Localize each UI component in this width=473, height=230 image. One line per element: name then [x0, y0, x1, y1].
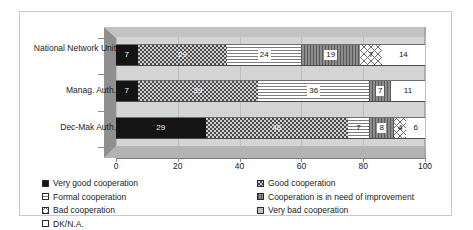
- legend-label: Bad cooperation: [53, 205, 115, 215]
- segment-value-label: 19: [324, 50, 337, 60]
- segment-value-label: 7: [125, 87, 129, 95]
- legend-item[interactable]: Formal cooperation: [42, 191, 257, 203]
- legend-column-left: Very good cooperationFormal cooperationB…: [42, 177, 257, 230]
- segment-value-label: 29: [156, 124, 165, 132]
- segment-value-label: 46: [272, 124, 281, 132]
- legend-item[interactable]: Bad cooperation: [42, 204, 257, 216]
- legend-item[interactable]: Cooperation is in need of improvement: [257, 191, 452, 203]
- x-axis-line: [116, 158, 425, 159]
- segment-value-label: 29: [178, 51, 187, 59]
- x-axis-tick-label: 60: [297, 161, 306, 171]
- segment-value-label: 39: [193, 87, 202, 95]
- legend-item[interactable]: Very good cooperation: [42, 177, 257, 189]
- x-axis-tick-label: 100: [418, 161, 432, 171]
- legend-item[interactable]: Good cooperation: [257, 177, 452, 189]
- segment-value-label: 14: [399, 51, 408, 59]
- legend-label: Very bad cooperation: [268, 205, 348, 215]
- legend-item[interactable]: DK/N.A.: [42, 218, 257, 230]
- segment-value-label: 8: [377, 123, 385, 133]
- segment-value-label: 11: [404, 87, 412, 95]
- segment-value-label: 7: [125, 51, 129, 59]
- legend-swatch-icon: [42, 220, 49, 227]
- legend-column-right: Good cooperationCooperation is in need o…: [257, 177, 452, 218]
- legend-label: Cooperation is in need of improvement: [268, 192, 414, 202]
- segment-value-label: 36: [307, 86, 320, 96]
- chart-frame: National Network Unit7292419714Manag. Au…: [19, 11, 452, 216]
- legend-swatch-icon: [42, 193, 49, 200]
- x-axis-tick-label: 40: [235, 161, 244, 171]
- segment-value-label: 24: [258, 50, 271, 60]
- legend-swatch-icon: [42, 207, 49, 214]
- x-axis-tick-label: 0: [114, 161, 119, 171]
- segment-value-label: 7: [376, 86, 384, 96]
- legend-label: DK/N.A.: [53, 219, 84, 229]
- legend-label: Very good cooperation: [53, 178, 138, 188]
- segment-value-label: 7: [356, 124, 360, 132]
- segment-value-label: 4: [398, 124, 402, 132]
- legend-swatch-icon: [257, 180, 264, 187]
- legend-swatch-icon: [257, 193, 264, 200]
- legend-label: Good cooperation: [268, 178, 336, 188]
- legend-label: Formal cooperation: [53, 192, 126, 202]
- legend-swatch-icon: [257, 207, 264, 214]
- x-axis-tick-label: 80: [358, 161, 367, 171]
- segment-value-label: 6: [413, 124, 417, 132]
- x-axis-tick-label: 20: [173, 161, 182, 171]
- legend-swatch-icon: [42, 180, 49, 187]
- segment-value-label: 7: [369, 51, 373, 59]
- legend-item[interactable]: Very bad cooperation: [257, 204, 452, 216]
